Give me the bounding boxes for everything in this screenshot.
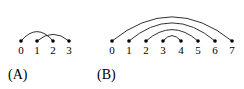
- node-dot-b-5: [196, 39, 200, 43]
- node-label-a-0: 0: [14, 45, 28, 56]
- node-dot-b-2: [144, 39, 148, 43]
- arc-b-3-4: [163, 36, 181, 41]
- node-dot-b-3: [161, 39, 165, 43]
- node-dot-b-1: [127, 39, 131, 43]
- node-dot-a-0: [19, 39, 23, 43]
- node-label-b-5: 5: [191, 45, 205, 56]
- node-dot-a-3: [67, 39, 71, 43]
- node-label-b-2: 2: [139, 45, 153, 56]
- panel-b: 01234567 (B): [96, 0, 244, 89]
- arc-b-1-6: [129, 23, 215, 41]
- node-dot-b-0: [110, 39, 114, 43]
- arc-diagram-figure: 0123 (A) 01234567 (B): [0, 0, 244, 89]
- node-label-b-1: 1: [122, 45, 136, 56]
- node-label-b-4: 4: [174, 45, 188, 56]
- node-label-a-1: 1: [30, 45, 44, 56]
- node-dot-b-4: [179, 39, 183, 43]
- node-dot-b-7: [230, 39, 234, 43]
- panel-b-caption: (B): [97, 68, 116, 82]
- node-label-b-6: 6: [208, 45, 222, 56]
- node-label-b-3: 3: [156, 45, 170, 56]
- node-dot-b-6: [213, 39, 217, 43]
- node-label-b-0: 0: [105, 45, 119, 56]
- node-dot-a-2: [51, 39, 55, 43]
- node-label-b-7: 7: [225, 45, 239, 56]
- panel-a-caption: (A): [8, 68, 27, 82]
- node-dot-a-1: [35, 39, 39, 43]
- node-label-a-3: 3: [62, 45, 76, 56]
- panel-a: 0123 (A): [0, 0, 96, 89]
- node-label-a-2: 2: [46, 45, 60, 56]
- arc-b-0-7: [112, 17, 232, 41]
